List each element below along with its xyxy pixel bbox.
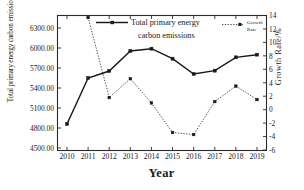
data-point-marker [192,133,195,136]
data-point-marker [234,56,237,59]
data-point-marker [192,73,195,76]
legend-marker-series2 [238,23,241,26]
legend [96,21,244,26]
data-point-marker [108,70,111,73]
data-point-marker [256,98,259,101]
data-point-marker [171,57,174,60]
data-point-marker [235,85,238,88]
data-point-marker [87,77,90,80]
data-point-marker [129,77,132,80]
data-point-marker [256,53,259,56]
data-point-marker [129,50,132,53]
data-point-marker [87,16,90,19]
data-point-marker [66,123,69,126]
plot-area [0,0,304,190]
data-point-marker [108,96,111,99]
data-point-marker [171,131,174,134]
plot-frame [58,16,267,151]
data-point-marker [150,47,153,50]
series-growth-rate [87,16,258,136]
data-point-marker [213,69,216,72]
series-carbon-emissions [66,47,259,125]
data-point-marker [150,102,153,105]
legend-marker-series1 [111,21,114,24]
x-axis-ticks [67,16,257,151]
data-point-marker [213,100,216,103]
chart-figure: Total primary energy carbon emissions/(1… [0,0,304,190]
